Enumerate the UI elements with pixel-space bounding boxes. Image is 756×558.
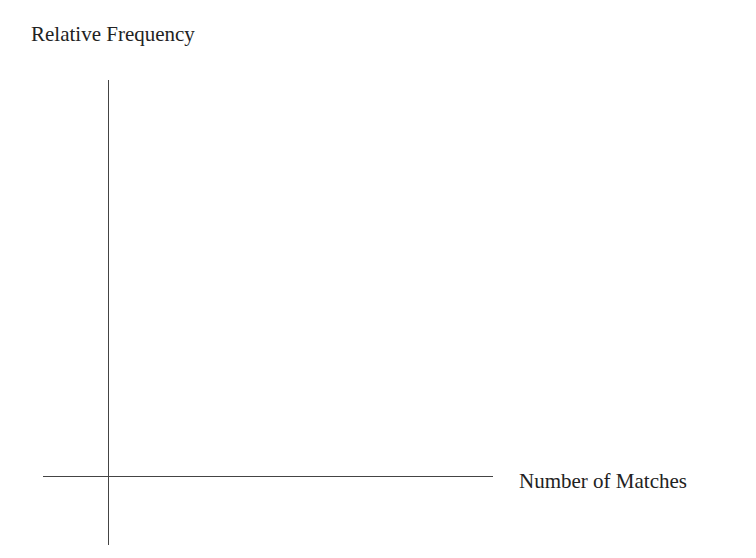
y-axis-label: Relative Frequency (31, 20, 195, 48)
x-axis-line (43, 476, 493, 477)
x-axis-label: Number of Matches (519, 467, 687, 495)
